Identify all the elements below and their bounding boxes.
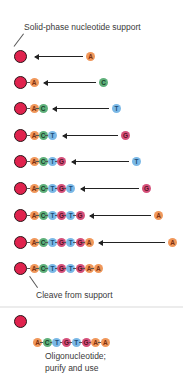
incoming-nucleotide-G: G xyxy=(121,131,130,140)
nucleotide-A: A xyxy=(94,264,103,273)
nucleotide-A: A xyxy=(101,338,110,347)
cleave-label: Cleave from support xyxy=(36,290,113,300)
free-support-bead xyxy=(14,315,27,328)
nucleotide-T: T xyxy=(48,131,57,140)
support-leader-line xyxy=(14,33,24,46)
incoming-nucleotide-G: G xyxy=(142,184,151,193)
addition-arrow xyxy=(63,135,118,136)
support-bead xyxy=(14,50,27,63)
nucleotide-G: G xyxy=(76,211,85,220)
support-bead xyxy=(14,76,27,89)
addition-arrow xyxy=(81,188,139,189)
addition-arrow xyxy=(44,82,96,83)
support-bead xyxy=(14,102,27,115)
support-bead xyxy=(14,236,27,249)
caption-line-1: Oligonucleotide; xyxy=(45,351,106,361)
divider xyxy=(0,306,183,308)
incoming-nucleotide-T: T xyxy=(112,104,121,113)
support-bead xyxy=(14,262,27,275)
support-bead xyxy=(14,129,27,142)
addition-arrow xyxy=(72,161,129,162)
caption-line-2: purify and use xyxy=(45,363,98,373)
nucleotide-A: A xyxy=(30,78,39,87)
nucleotide-C: C xyxy=(39,104,48,113)
addition-arrow xyxy=(35,56,83,57)
support-bead xyxy=(14,182,27,195)
incoming-nucleotide-C: C xyxy=(99,78,108,87)
addition-arrow xyxy=(53,108,109,109)
cleave-leader-line xyxy=(29,276,38,288)
support-bead xyxy=(14,209,27,222)
addition-arrow xyxy=(90,215,151,216)
incoming-nucleotide-A: A xyxy=(154,211,163,220)
addition-arrow xyxy=(99,242,165,243)
incoming-nucleotide-A: A xyxy=(86,52,95,61)
incoming-nucleotide-T: T xyxy=(132,157,141,166)
nucleotide-G: G xyxy=(57,157,66,166)
support-bead xyxy=(14,155,27,168)
nucleotide-A: A xyxy=(85,238,94,247)
nucleotide-T: T xyxy=(66,184,75,193)
incoming-nucleotide-A: A xyxy=(168,238,177,247)
support-label: Solid-phase nucleotide support xyxy=(24,22,141,32)
